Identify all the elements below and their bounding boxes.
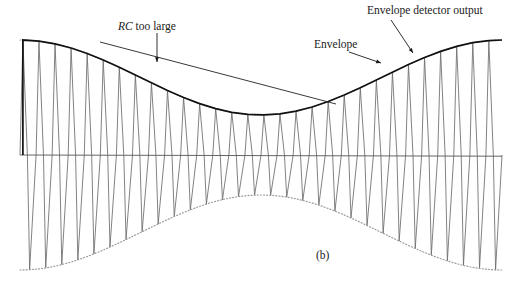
figure-caption: (b)	[316, 249, 329, 262]
lower-envelope-curve	[20, 195, 502, 270]
annotation-arrows	[155, 20, 413, 63]
rc-italic-text: RC	[118, 20, 133, 32]
rc-too-large-line	[100, 42, 336, 104]
upper-envelope-curve	[20, 40, 502, 115]
annotation-envelope-detector-output: Envelope detector output	[367, 4, 483, 17]
annotation-arrowhead-2	[409, 48, 413, 53]
time-axis-line	[20, 155, 502, 156]
annotation-arrowhead-1	[376, 60, 381, 64]
annotation-arrow-line-1	[349, 52, 381, 63]
waveform-plot	[0, 0, 518, 288]
annotation-arrow-line-2	[391, 20, 413, 53]
rc-suffix-text: too large	[133, 20, 176, 32]
envelope-detector-figure: RC too large Envelope Envelope detector …	[0, 0, 518, 288]
annotation-arrowhead-0	[155, 57, 159, 62]
annotation-envelope: Envelope	[314, 38, 357, 51]
annotation-rc-too-large: RC too large	[118, 20, 176, 33]
